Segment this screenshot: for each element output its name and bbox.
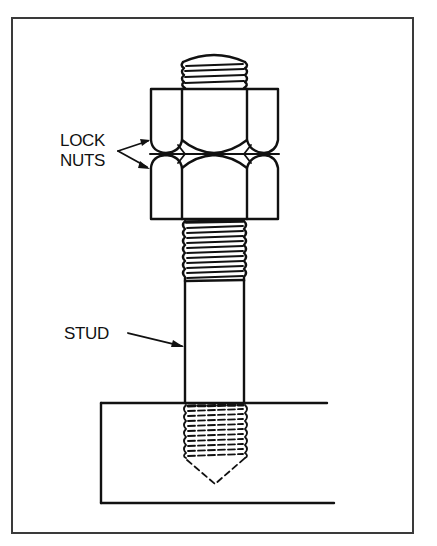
stud-top-thread (182, 55, 247, 88)
lower-lock-nut (151, 155, 278, 219)
label-nuts: NUTS (60, 151, 105, 170)
stud-lock-nut-drawing (0, 0, 437, 546)
upper-lock-nut (151, 89, 278, 153)
lock-nuts-arrowhead-lower (138, 161, 150, 169)
lock-nuts-arrowhead-upper (140, 139, 150, 146)
stud-middle-thread (183, 221, 246, 281)
label-lock: LOCK (60, 131, 105, 150)
label-stud: STUD (64, 324, 109, 343)
stud-arrowhead (171, 340, 184, 347)
lock-nuts-leader (118, 141, 148, 167)
stud-shank (185, 280, 244, 403)
tapped-hole-threads (184, 405, 247, 484)
base-block (101, 403, 334, 503)
